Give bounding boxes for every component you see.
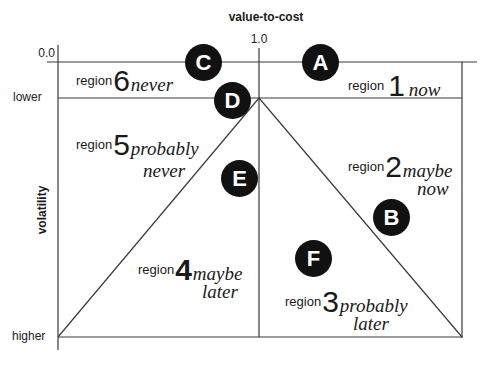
region-4-verdict-line2: later	[202, 282, 238, 301]
region-prefix: region	[348, 79, 384, 92]
region-number: 1	[388, 71, 405, 101]
region-prefix: region	[76, 74, 112, 87]
marker-d: D	[214, 82, 251, 119]
region-6-label: region 6 never	[76, 66, 173, 96]
y-tick-lower: lower	[13, 90, 42, 104]
region-prefix: region	[76, 138, 112, 151]
marker-e: E	[221, 160, 258, 197]
marker-b: B	[373, 199, 410, 236]
x-tick-one: 1.0	[244, 32, 274, 46]
marker-f: F	[295, 240, 332, 277]
region-3-verdict-line2: later	[353, 314, 389, 333]
region-prefix: region	[138, 263, 174, 276]
region-prefix: region	[285, 295, 321, 308]
region-number: 4	[175, 255, 192, 285]
y-axis-title: volatility	[35, 170, 49, 250]
region-number: 5	[113, 130, 130, 160]
region-prefix: region	[348, 160, 384, 173]
region-number: 2	[385, 152, 402, 182]
region-number: 3	[322, 287, 339, 317]
region-3-label: region 3 probably	[285, 287, 408, 317]
x-tick-zero: 0.0	[25, 46, 55, 60]
region-verdict: never	[131, 75, 173, 94]
region-5-label: region 5 probably	[76, 130, 199, 160]
region-verdict: probably	[131, 139, 199, 158]
region-number: 6	[113, 66, 130, 96]
region-2-verdict-line2: now	[417, 179, 449, 198]
region-5-verdict-line2: never	[143, 161, 185, 180]
volatility-value-diagram: value-to-cost volatility 1.0 0.0 lower h…	[0, 0, 489, 365]
marker-c: C	[185, 44, 222, 81]
marker-a: A	[302, 44, 339, 81]
region-1-label: region 1 now	[348, 71, 441, 101]
region-verdict: now	[409, 80, 441, 99]
y-tick-higher: higher	[12, 329, 45, 343]
x-axis-title: value-to-cost	[216, 10, 316, 24]
